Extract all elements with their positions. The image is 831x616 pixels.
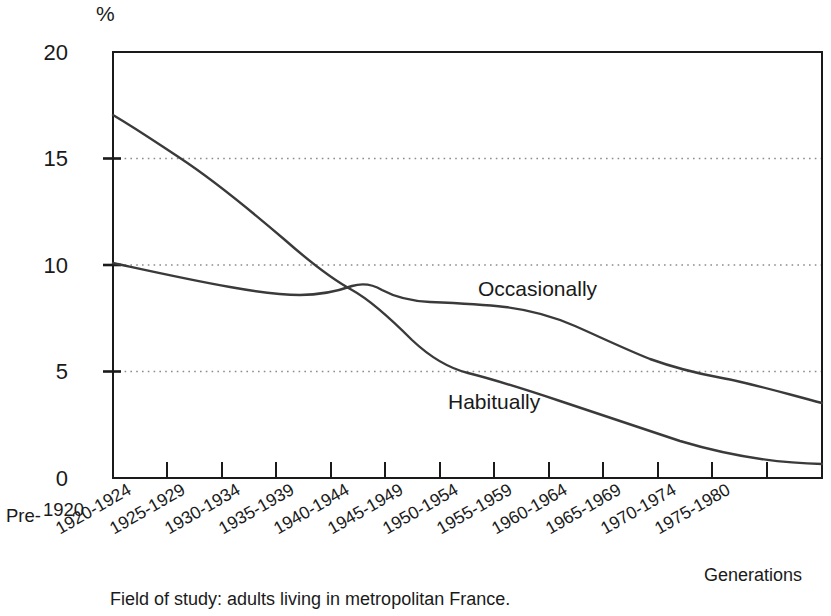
chart-footnote: Field of study: adults living in metropo… <box>110 589 510 610</box>
series-label-occasionally: Occasionally <box>478 277 597 301</box>
x-axis-ticks <box>167 462 767 478</box>
series-label-habitually: Habitually <box>448 390 540 414</box>
gridlines <box>113 159 822 372</box>
series-line-occasionally <box>113 263 822 403</box>
chart-figure: % 20 15 10 5 0 <box>0 0 831 616</box>
x-axis-title: Generations <box>704 565 802 586</box>
x-cat-label-pre-prefix: Pre- <box>6 505 41 526</box>
